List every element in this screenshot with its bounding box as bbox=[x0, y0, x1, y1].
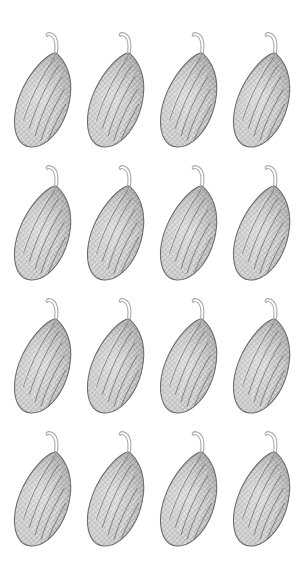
leaf-illustration bbox=[154, 20, 227, 153]
leaf-motif-instance bbox=[81, 33, 154, 153]
leaf-motif-instance bbox=[227, 299, 299, 419]
leaf-motif-instance bbox=[154, 432, 227, 552]
leaf-tile bbox=[81, 419, 154, 552]
leaf-tile bbox=[227, 20, 299, 153]
leaf-illustration bbox=[81, 153, 154, 286]
leaf-motif-instance bbox=[81, 432, 154, 552]
leaf-motif-instance bbox=[81, 166, 154, 286]
leaf-tile bbox=[8, 153, 81, 286]
leaf-illustration bbox=[227, 286, 299, 419]
leaf-tile bbox=[81, 153, 154, 286]
leaf-tile bbox=[154, 419, 227, 552]
leaf-illustration bbox=[8, 286, 81, 419]
leaf-tile bbox=[154, 20, 227, 153]
leaf-motif-instance bbox=[227, 166, 299, 286]
leaf-illustration bbox=[154, 286, 227, 419]
leaf-illustration bbox=[81, 286, 154, 419]
leaf-tile bbox=[227, 153, 299, 286]
leaf-motif-instance bbox=[154, 299, 227, 419]
leaf-tile bbox=[8, 419, 81, 552]
leaf-illustration bbox=[154, 153, 227, 286]
leaf-pattern-sheet bbox=[0, 0, 299, 580]
leaf-tile bbox=[8, 286, 81, 419]
leaf-grid bbox=[0, 0, 299, 580]
leaf-illustration bbox=[8, 419, 81, 552]
leaf-illustration bbox=[154, 419, 227, 552]
leaf-motif-instance bbox=[154, 166, 227, 286]
leaf-illustration bbox=[227, 20, 299, 153]
leaf-tile bbox=[81, 286, 154, 419]
leaf-motif-instance bbox=[8, 432, 81, 552]
leaf-motif-instance bbox=[8, 299, 81, 419]
leaf-motif-instance bbox=[227, 33, 299, 153]
leaf-illustration bbox=[227, 153, 299, 286]
leaf-tile bbox=[227, 419, 299, 552]
leaf-tile bbox=[227, 286, 299, 419]
leaf-motif-instance bbox=[8, 33, 81, 153]
leaf-tile bbox=[154, 286, 227, 419]
leaf-tile bbox=[8, 20, 81, 153]
leaf-illustration bbox=[8, 153, 81, 286]
leaf-motif-instance bbox=[154, 33, 227, 153]
leaf-motif-instance bbox=[227, 432, 299, 552]
leaf-tile bbox=[154, 153, 227, 286]
leaf-illustration bbox=[227, 419, 299, 552]
leaf-illustration bbox=[81, 419, 154, 552]
leaf-motif-instance bbox=[8, 166, 81, 286]
leaf-illustration bbox=[81, 20, 154, 153]
leaf-motif-instance bbox=[81, 299, 154, 419]
leaf-tile bbox=[81, 20, 154, 153]
leaf-illustration bbox=[8, 20, 81, 153]
